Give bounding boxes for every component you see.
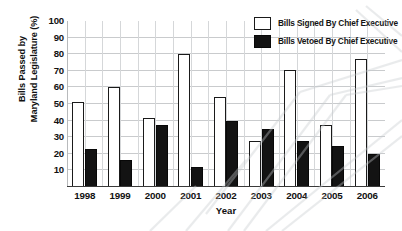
- x-tick-label-2005: 2005: [314, 190, 350, 202]
- legend-label-vetoed: Bills Vetoed By Chief Executive: [278, 36, 397, 47]
- x-tick-label-1999: 1999: [102, 190, 138, 202]
- y-tick-label-70: 70: [38, 66, 64, 76]
- y-tick-label-20: 20: [38, 149, 64, 159]
- y-axis-tick-labels: 102030405060708090100: [38, 21, 64, 187]
- y-tick-label-100: 100: [38, 16, 64, 26]
- x-tick-label-2006: 2006: [349, 190, 385, 202]
- bar-2001-vetoed: [191, 167, 203, 187]
- x-tick-label-2000: 2000: [137, 190, 173, 202]
- legend-entry-1: Bills Signed By Chief Executive: [254, 16, 394, 33]
- x-tick-label-2003: 2003: [243, 190, 279, 202]
- bar-2003-vetoed: [262, 129, 274, 187]
- bar-2004-vetoed: [297, 141, 309, 187]
- bar-1998-signed: [72, 102, 84, 187]
- x-axis-title: Year: [67, 205, 385, 216]
- bar-2000-signed: [143, 118, 155, 187]
- x-tick-label-1998: 1998: [67, 190, 103, 202]
- y-axis-title-line-1: Bills Passed by: [17, 0, 29, 149]
- legend-entry-2: Bills Vetoed By Chief Executive: [254, 34, 394, 51]
- bar-2005-vetoed: [332, 146, 344, 188]
- bar-2006-vetoed: [368, 154, 380, 187]
- legend-swatch-signed: [254, 17, 271, 30]
- bar-1998-vetoed: [85, 149, 97, 187]
- legend-label-signed: Bills Signed By Chief Executive: [278, 18, 398, 29]
- bar-2003-signed: [249, 141, 261, 187]
- y-tick-label-60: 60: [38, 82, 64, 92]
- x-tick-label-2004: 2004: [279, 190, 315, 202]
- bar-1999-vetoed: [120, 160, 132, 187]
- x-tick-label-2001: 2001: [173, 190, 209, 202]
- chart-legend: Bills Signed By Chief ExecutiveBills Vet…: [254, 16, 394, 52]
- bar-2002-vetoed: [226, 121, 238, 187]
- y-tick-label-30: 30: [38, 132, 64, 142]
- bar-1999-signed: [108, 87, 120, 187]
- bar-2002-signed: [214, 97, 226, 187]
- bar-2001-signed: [178, 54, 190, 187]
- bar-2000-vetoed: [156, 125, 168, 187]
- y-tick-label-40: 40: [38, 116, 64, 126]
- y-tick-label-80: 80: [38, 49, 64, 59]
- bar-2005-signed: [320, 125, 332, 187]
- x-tick-label-2002: 2002: [208, 190, 244, 202]
- y-tick-label-10: 10: [38, 165, 64, 175]
- y-tick-label-50: 50: [38, 99, 64, 109]
- x-axis-tick-labels: 199819992000200120022003200420052006: [67, 190, 385, 206]
- y-tick-label-90: 90: [38, 33, 64, 43]
- bar-chart: Bills Passed by Maryland Legislature (%)…: [0, 0, 402, 231]
- legend-swatch-vetoed: [254, 35, 271, 48]
- bar-2004-signed: [284, 70, 296, 187]
- x-axis-baseline: [67, 186, 385, 188]
- bar-2006-signed: [355, 59, 367, 187]
